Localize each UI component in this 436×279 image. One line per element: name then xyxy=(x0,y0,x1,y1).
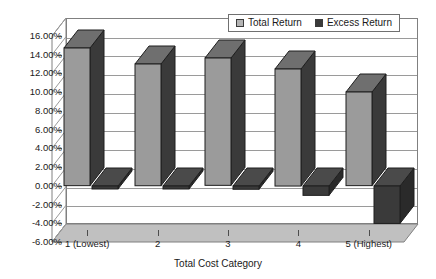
y-axis-tick xyxy=(57,111,62,112)
y-axis-tick-label: 16.00% xyxy=(4,31,62,41)
bar-total-return xyxy=(64,48,90,186)
y-axis-tick-label: -2.00% xyxy=(4,200,62,210)
y-axis-tick-label: 2.00% xyxy=(4,162,62,172)
x-axis-tick xyxy=(87,230,88,236)
x-axis-tick-label: 5 (Highest) xyxy=(319,238,419,249)
bar-total-return xyxy=(346,92,372,186)
bar-total-return xyxy=(275,69,301,186)
y-axis-tick xyxy=(57,130,62,131)
y-axis-tick xyxy=(57,223,62,224)
bar-total-return xyxy=(205,58,231,185)
y-axis-tick-label: 6.00% xyxy=(4,125,62,135)
legend-label-total-return: Total Return xyxy=(248,17,302,28)
legend-item-excess-return: Excess Return xyxy=(315,17,392,28)
y-axis-tick xyxy=(57,55,62,56)
bar-total-return xyxy=(135,64,161,186)
bar-excess-return xyxy=(92,186,118,189)
y-axis-tick xyxy=(57,148,62,149)
y-axis-tick-label: 8.00% xyxy=(4,106,62,116)
y-axis-tick-label: 12.00% xyxy=(4,68,62,78)
x-axis-tick xyxy=(158,230,159,236)
x-axis-tick xyxy=(369,230,370,236)
legend-swatch-total-return-icon xyxy=(236,19,244,27)
chart-container: 16.00%14.00%12.00%10.00%8.00%6.00%4.00%2… xyxy=(0,0,436,279)
y-axis-tick xyxy=(57,167,62,168)
y-axis-tick-label: -4.00% xyxy=(4,218,62,228)
bar-excess-return xyxy=(163,186,189,189)
legend-swatch-excess-return-icon xyxy=(315,19,323,27)
x-axis-tick xyxy=(298,230,299,236)
y-axis-tick xyxy=(57,36,62,37)
y-axis-tick-label: 0.00% xyxy=(4,181,62,191)
y-axis-tick xyxy=(57,73,62,74)
y-axis-tick xyxy=(57,205,62,206)
legend-label-excess-return: Excess Return xyxy=(327,17,392,28)
legend-item-total-return: Total Return xyxy=(236,17,302,28)
y-axis-tick-label: 14.00% xyxy=(4,50,62,60)
x-axis-tick xyxy=(228,230,229,236)
x-axis-title: Total Cost Category xyxy=(0,258,436,269)
chart-legend: Total Return Excess Return xyxy=(228,14,400,32)
bar-excess-return xyxy=(303,186,329,195)
bar-excess-return xyxy=(374,186,400,223)
y-axis-tick xyxy=(57,186,62,187)
y-axis-tick xyxy=(57,92,62,93)
bar-excess-return xyxy=(233,186,259,189)
y-axis-tick-label: 10.00% xyxy=(4,87,62,97)
y-axis-tick-label: 4.00% xyxy=(4,143,62,153)
